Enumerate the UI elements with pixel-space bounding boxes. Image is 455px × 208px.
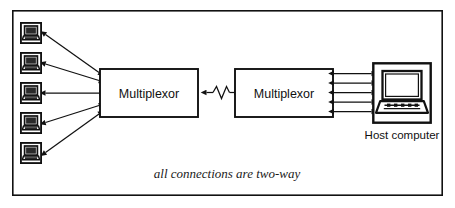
diagram-caption: all connections are two-way: [154, 166, 301, 181]
terminal-icon[interactable]: [21, 53, 41, 73]
desktop-computer-icon[interactable]: [373, 63, 430, 122]
multiplexor-left-label: Multiplexor: [119, 87, 179, 101]
multiplexor-right[interactable]: Multiplexor: [235, 69, 333, 117]
multiplexor-left[interactable]: Multiplexor: [100, 69, 198, 117]
terminal-icon[interactable]: [21, 113, 41, 133]
network-diagram: Multiplexor Multiplexor Host computer a: [0, 0, 455, 208]
terminal-icon[interactable]: [21, 23, 41, 43]
terminal-stack: [21, 23, 41, 163]
terminal-icon[interactable]: [21, 143, 41, 163]
terminal-icon[interactable]: [21, 83, 41, 103]
host-computer[interactable]: Host computer: [365, 63, 440, 141]
diagram-canvas: Multiplexor Multiplexor Host computer a: [0, 0, 455, 208]
host-computer-label: Host computer: [365, 129, 440, 141]
multiplexor-right-label: Multiplexor: [254, 87, 314, 101]
